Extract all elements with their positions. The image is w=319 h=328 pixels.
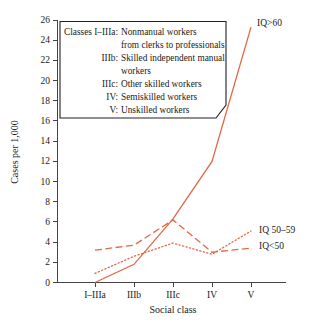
legend-term-6: V: [109,105,118,115]
legend-desc-3: workers [121,66,151,76]
y-tick-label-14: 14 [41,136,51,146]
y-axis-title: Cases per 1,000 [9,120,20,184]
legend-desc-2: Skilled independent manual [121,53,225,63]
x-category-label-4: V [248,290,255,300]
legend-desc-1: from clerks to professionals [121,40,225,50]
legend-desc-5: Semiskilled workers [121,92,198,102]
y-tick-label-2: 2 [45,257,50,267]
line-chart: 0 2 4 6 8 10 12 14 16 18 20 22 24 26 I–I… [0,0,319,328]
y-tick-label-24: 24 [41,35,51,45]
y-tick-label-6: 6 [45,217,50,227]
y-tick-label-4: 4 [45,237,50,247]
x-category-label-0: I–IIIa [84,290,106,300]
series-label-iq-low: IQ<50 [259,241,284,251]
y-tick-label-18: 18 [41,96,51,106]
legend-desc-6: Unskilled workers [121,105,190,115]
series-line-iq-mid [95,231,251,273]
legend-term-4: IIIc: [102,79,118,89]
y-tick-label-26: 26 [41,15,51,25]
x-axis-title: Social class [150,304,197,315]
y-tick-label-10: 10 [41,177,51,187]
legend-term-5: IV: [106,92,118,102]
series-line-iq-low [95,220,251,252]
series-label-iq-high: IQ>60 [257,18,282,28]
legend-term-0: Classes I–IIIa: [64,27,118,37]
chart-figure: 0 2 4 6 8 10 12 14 16 18 20 22 24 26 I–I… [0,0,319,328]
x-category-label-3: IV [207,290,217,300]
y-axis-ticks: 0 2 4 6 8 10 12 14 16 18 20 22 24 26 [41,15,58,288]
x-category-label-2: IIIc [166,290,180,300]
legend-term-2: IIIb: [101,53,118,63]
x-axis-ticks: I–IIIa IIIb IIIc IV V [84,283,254,301]
y-tick-label-0: 0 [45,278,50,288]
y-tick-label-12: 12 [41,156,51,166]
x-category-label-1: IIIb [127,290,141,300]
y-tick-label-8: 8 [45,197,50,207]
legend-desc-0: Nonmanual workers [121,27,197,37]
y-tick-label-22: 22 [41,55,51,65]
y-tick-label-16: 16 [41,116,51,126]
legend-desc-4: Other skilled workers [121,79,202,89]
legend-box: Classes I–IIIa: Nonmanual workers from c… [60,22,226,119]
y-tick-label-20: 20 [41,76,51,86]
series-label-iq-mid: IQ 50–59 [259,225,295,235]
